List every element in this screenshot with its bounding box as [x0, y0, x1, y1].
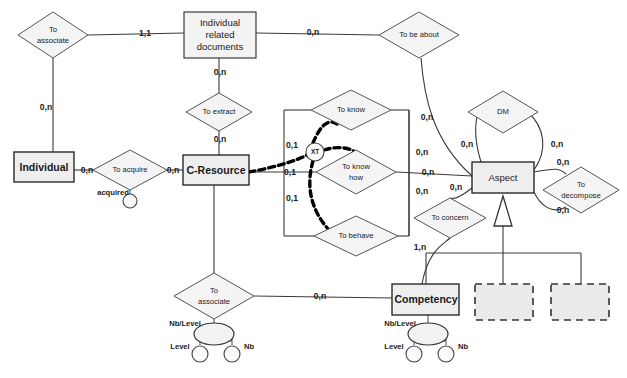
rel-to-concern-label: To concern [431, 213, 468, 222]
entity-ird-label-line2: related [205, 29, 234, 40]
cardinality-6: 0,n [167, 165, 179, 175]
cardinality-8: 0,1 [284, 167, 296, 177]
cardinality-14: 0,n [461, 139, 473, 149]
rel-to-know-how-label-1: To know [342, 162, 370, 171]
entity-placeholder-2[interactable] [551, 284, 609, 320]
rel-associate-top-label-1: To [49, 25, 57, 34]
attribute-nb-level-left-label: Nb/Level [169, 319, 201, 328]
rel-associate-bottom-label-1: To [210, 286, 218, 295]
rel-to-know-label: To know [337, 105, 365, 114]
entity-individual-related-documents[interactable]: Individual related documents [184, 12, 256, 58]
relationship-to-acquire[interactable]: To acquire [93, 150, 167, 190]
cardinality-5: 0,n [81, 165, 93, 175]
rel-to-know-how-label-2: how [349, 173, 363, 182]
relationship-to-behave[interactable]: To behave [314, 216, 398, 256]
cardinality-13: 0,n [416, 186, 428, 196]
attribute-level-right[interactable]: Level [384, 342, 422, 362]
cardinality-16: 0,n [557, 157, 569, 167]
rel-to-be-about-label: To be about [399, 30, 440, 39]
relationship-to-extract[interactable]: To extract [186, 93, 252, 131]
entity-c-resource[interactable]: C-Resource [183, 155, 249, 185]
entity-aspect-label: Aspect [488, 172, 517, 183]
entity-individual-label: Individual [19, 161, 68, 173]
relationship-to-know-how[interactable]: To know how [316, 150, 396, 194]
cardinality-15: 0,n [551, 139, 563, 149]
entity-ird-label-line3: documents [197, 41, 244, 52]
attribute-nb-left[interactable]: Nb [224, 342, 254, 362]
cardinality-11: 0,n [416, 147, 428, 157]
cardinality-10: 0,n [421, 112, 433, 122]
attribute-acquired-label: acquired [97, 188, 129, 197]
entity-ird-label-line1: Individual [200, 17, 240, 28]
attribute-acquired[interactable]: acquired [97, 188, 137, 208]
relationship-to-concern[interactable]: To concern [414, 198, 486, 238]
entity-competency[interactable]: Competency [392, 284, 459, 315]
relationship-to-associate-bottom[interactable]: To associate [174, 273, 254, 319]
cardinality-12: 0,n [422, 167, 434, 177]
cardinality-7: 0,1 [286, 140, 298, 150]
cardinality-3: 0,n [214, 67, 226, 77]
attribute-nb-level-right-label: Nb/Level [384, 319, 416, 328]
er-diagram-canvas: Individual Individual related documents … [0, 0, 627, 378]
rel-associate-top-label-2: associate [37, 36, 69, 45]
cardinality-0: 1,1 [139, 28, 151, 38]
entity-individual[interactable]: Individual [14, 152, 74, 182]
xt-constraint-node[interactable]: XT [306, 143, 324, 161]
generalization-triangle [494, 196, 512, 226]
attribute-nb-left-label: Nb [244, 342, 254, 351]
cardinality-2: 0,n [307, 27, 319, 37]
attribute-nb-right[interactable]: Nb [438, 342, 468, 362]
rel-to-decompose-label-2: decompose [561, 191, 600, 200]
cardinality-18: 0,n [450, 182, 462, 192]
attribute-level-left-label: Level [170, 342, 189, 351]
relationship-dm[interactable]: DM [468, 91, 538, 133]
rel-to-extract-label: To extract [203, 107, 237, 116]
rel-dm-label: DM [497, 107, 509, 116]
attribute-level-left[interactable]: Level [170, 342, 208, 362]
relationship-to-associate-top[interactable]: To associate [18, 12, 88, 58]
attribute-level-right-label: Level [384, 342, 403, 351]
rel-to-decompose-label-1: To [577, 180, 585, 189]
entity-competency-label: Competency [394, 293, 457, 305]
relationship-to-be-about[interactable]: To be about [379, 12, 459, 58]
relationship-to-decompose[interactable]: To decompose [543, 167, 619, 213]
cardinality-9: 0,1 [286, 193, 298, 203]
cardinality-20: 0,n [314, 291, 326, 301]
cardinality-19: 1,n [414, 242, 426, 252]
entity-placeholder-1[interactable] [475, 284, 533, 320]
rel-to-acquire-label: To acquire [112, 165, 147, 174]
cardinality-4: 0,n [214, 134, 226, 144]
rel-associate-bottom-label-2: associate [198, 297, 230, 306]
cardinality-1: 0,n [40, 102, 52, 112]
entity-c-resource-label: C-Resource [187, 164, 246, 176]
cardinality-17: 0,n [557, 205, 569, 215]
entity-aspect[interactable]: Aspect [472, 162, 534, 193]
attribute-nb-right-label: Nb [458, 342, 468, 351]
xt-label: XT [311, 148, 319, 155]
rel-to-behave-label: To behave [338, 231, 373, 240]
